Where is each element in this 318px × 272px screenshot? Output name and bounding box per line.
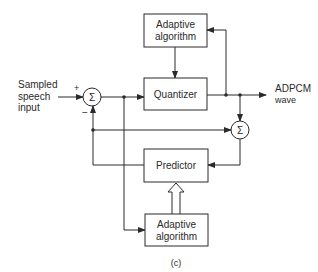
adpcm-block-diagram: Sampled speech input + − Σ Adaptive algo… bbox=[0, 0, 318, 272]
svg-text:speech: speech bbox=[18, 91, 50, 102]
svg-text:Σ: Σ bbox=[89, 92, 95, 103]
reconstructed-to-predictor-arrow bbox=[208, 139, 240, 165]
predictor-block: Predictor bbox=[144, 149, 208, 182]
coefficient-update-arrow bbox=[168, 183, 184, 214]
error-to-adaptive-arrow bbox=[124, 97, 145, 230]
summing-junction-input: Σ bbox=[83, 88, 101, 106]
plus-sign: + bbox=[74, 83, 79, 93]
minus-sign: − bbox=[82, 107, 88, 118]
svg-text:input: input bbox=[18, 102, 40, 113]
svg-text:Sampled: Sampled bbox=[18, 79, 57, 90]
output-label: ADPCM wave bbox=[274, 83, 311, 105]
figure-caption: (c) bbox=[171, 258, 182, 268]
quantizer-block: Quantizer bbox=[144, 78, 207, 110]
input-label: Sampled speech input bbox=[18, 79, 57, 113]
svg-text:wave: wave bbox=[274, 95, 296, 105]
svg-text:Predictor: Predictor bbox=[156, 160, 197, 171]
svg-text:Σ: Σ bbox=[237, 125, 243, 136]
svg-text:algorithm: algorithm bbox=[155, 31, 196, 42]
summing-junction-reconstruction: Σ bbox=[231, 121, 249, 139]
adaptive-algorithm-top-block: Adaptive algorithm bbox=[144, 14, 207, 47]
feedback-to-adaptive-arrow bbox=[207, 30, 226, 95]
svg-text:ADPCM: ADPCM bbox=[275, 83, 311, 94]
adaptive-algorithm-bottom-block: Adaptive algorithm bbox=[145, 214, 208, 246]
svg-text:Quantizer: Quantizer bbox=[154, 89, 198, 100]
predictor-output-line bbox=[93, 130, 144, 165]
svg-text:Adaptive: Adaptive bbox=[156, 19, 195, 30]
svg-text:Adaptive: Adaptive bbox=[157, 219, 196, 230]
svg-text:algorithm: algorithm bbox=[156, 231, 197, 242]
